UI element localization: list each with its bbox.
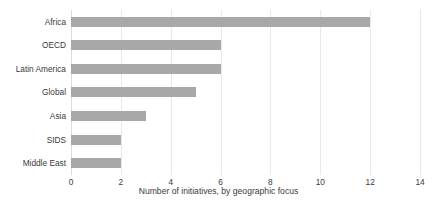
bar[interactable] — [71, 135, 121, 145]
y-axis-tick-label: Middle East — [23, 159, 66, 167]
y-axis-tick-label: Asia — [50, 112, 66, 120]
bar-row: Global — [71, 81, 420, 105]
x-axis-tick-label: 2 — [119, 178, 124, 186]
bar-row: OECD — [71, 34, 420, 58]
bar-row: Middle East — [71, 151, 420, 175]
x-axis-tick-label: 12 — [366, 178, 375, 186]
x-axis-tick-label: 0 — [69, 178, 74, 186]
bar[interactable] — [71, 64, 221, 74]
bar-row: Asia — [71, 104, 420, 128]
bar-row: SIDS — [71, 128, 420, 152]
gridline-14 — [420, 10, 421, 175]
y-axis-tick-label: Global — [42, 88, 66, 96]
bar[interactable] — [71, 158, 121, 168]
x-axis-tick-label: 14 — [415, 178, 424, 186]
plot-area: AfricaOECDLatin AmericaGlobalAsiaSIDSMid… — [71, 10, 420, 175]
y-axis-tick-label: Africa — [45, 18, 66, 26]
y-axis-tick-label: Latin America — [16, 65, 66, 73]
bar-chart: AfricaOECDLatin AmericaGlobalAsiaSIDSMid… — [0, 0, 437, 212]
clipped-bottom-text — [0, 206, 437, 212]
y-axis-tick-label: OECD — [42, 41, 66, 49]
bar-row: Africa — [71, 10, 420, 34]
x-axis-tick-label: 10 — [316, 178, 325, 186]
bar-row: Latin America — [71, 57, 420, 81]
x-axis-label: Number of initiatives, by geographic foc… — [0, 187, 437, 196]
bar[interactable] — [71, 87, 196, 97]
bar[interactable] — [71, 17, 370, 27]
bar[interactable] — [71, 40, 221, 50]
bar[interactable] — [71, 111, 146, 121]
y-axis-tick-label: SIDS — [47, 135, 66, 143]
